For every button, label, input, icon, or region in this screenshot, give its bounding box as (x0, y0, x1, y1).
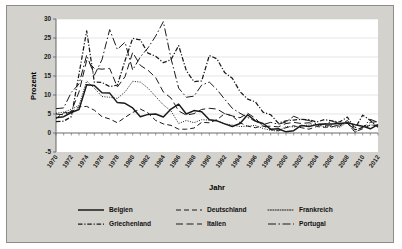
x-tick-label: 1988 (183, 153, 197, 169)
legend-label-deutschland: Deutschland (207, 206, 247, 213)
legend-label-portugal: Portugal (299, 220, 326, 228)
x-tick-label: 1970 (45, 153, 59, 169)
x-tick-label: 1984 (153, 153, 167, 169)
legend-label-belgien: Belgien (109, 206, 133, 214)
legend-item-deutschland: Deutschland (176, 206, 247, 213)
y-tick-label: 15 (44, 72, 52, 79)
x-axis-title: Jahr (209, 183, 225, 192)
y-tick-label: -5 (45, 148, 51, 155)
x-tick-label: 1996 (245, 153, 259, 169)
x-tick-label: 1992 (214, 153, 228, 169)
x-tick-label: 2006 (321, 153, 335, 169)
legend-label-italien: Italien (207, 220, 226, 227)
x-tick-label: 1986 (168, 153, 182, 169)
legend-item-italien: Italien (176, 220, 226, 227)
legend-label-griechenland: Griechenland (109, 220, 151, 227)
x-tick-label: 2010 (352, 153, 366, 169)
x-tick-label: 1980 (122, 153, 136, 169)
line-chart: -5051015202530 1970197219741976197819801… (0, 0, 402, 249)
x-tick-label: 1976 (91, 153, 105, 169)
x-tick-label: 2000 (275, 153, 289, 169)
y-tick-label: 5 (47, 110, 51, 117)
y-axis-title: Prozent (29, 72, 38, 100)
legend-item-frankreich: Frankreich (268, 206, 333, 213)
x-tick-label: 1978 (107, 153, 121, 169)
x-tick-label: 1982 (137, 153, 151, 169)
x-tick-label: 2008 (337, 153, 351, 169)
plot-background (56, 19, 378, 152)
x-tick-label: 1994 (229, 153, 243, 169)
y-tick-label: 0 (47, 129, 51, 136)
y-axis-tick-labels: -5051015202530 (44, 15, 52, 155)
legend-item-griechenland: Griechenland (78, 220, 151, 227)
y-tick-label: 10 (44, 91, 52, 98)
legend: BelgienDeutschlandFrankreichGriechenland… (78, 206, 333, 228)
chart-screenshot: -5051015202530 1970197219741976197819801… (0, 0, 402, 249)
x-tick-label: 1998 (260, 153, 274, 169)
x-tick-label: 2012 (367, 153, 381, 169)
legend-label-frankreich: Frankreich (299, 206, 333, 213)
x-tick-label: 2002 (291, 153, 305, 169)
x-tick-label: 2004 (306, 153, 320, 169)
legend-item-belgien: Belgien (78, 206, 133, 214)
x-tick-label: 1972 (61, 153, 75, 169)
legend-item-portugal: Portugal (268, 220, 326, 228)
y-tick-label: 30 (44, 15, 52, 22)
x-axis-tick-labels: 1970197219741976197819801982198419861988… (45, 153, 381, 169)
x-tick-label: 1990 (199, 153, 213, 169)
y-tick-label: 25 (44, 34, 52, 41)
x-tick-label: 1974 (76, 153, 90, 169)
y-tick-label: 20 (44, 53, 52, 60)
